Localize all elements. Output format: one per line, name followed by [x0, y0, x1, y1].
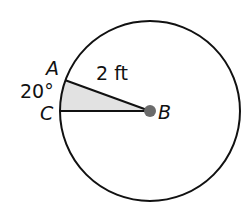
center-point-B	[144, 105, 156, 117]
circle-diagram: A 20° C 2 ft B	[0, 0, 251, 210]
point-label-B: B	[158, 101, 171, 123]
point-label-C: C	[40, 102, 54, 124]
point-label-A: A	[44, 57, 59, 79]
radius-label: 2 ft	[96, 62, 128, 84]
angle-label: 20°	[20, 80, 54, 102]
